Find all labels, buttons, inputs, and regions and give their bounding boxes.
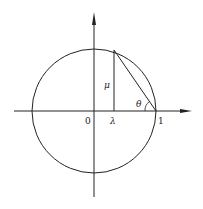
x-axis-arrow-icon [180, 109, 192, 113]
chord-segment [114, 50, 156, 111]
origin-label: 0 [85, 116, 91, 126]
theta-arc [145, 102, 150, 112]
lambda-label: λ [109, 116, 116, 126]
one-label: 1 [158, 116, 164, 126]
diagram-canvas: μ θ 0 λ 1 [0, 0, 203, 209]
mu-label: μ [104, 80, 110, 90]
y-axis-arrow-icon [92, 12, 96, 25]
theta-label: θ [136, 99, 142, 109]
